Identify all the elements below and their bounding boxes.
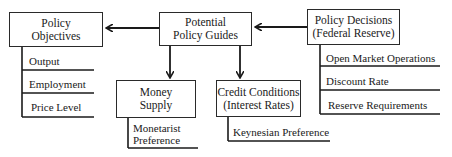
credit-conditions-line2: (Interest Rates) <box>223 99 294 112</box>
credit-conditions-line1: Credit Conditions <box>217 86 299 99</box>
policy-objectives-line1: Policy <box>41 17 70 30</box>
policy-decisions-line2: (Federal Reserve) <box>312 27 394 40</box>
objective-item: Employment <box>29 78 86 90</box>
potential-policy-guides-box: Potential Policy Guides <box>159 12 252 46</box>
policy-objectives-box: Policy Objectives <box>9 12 103 47</box>
potential-policy-guides-line2: Policy Guides <box>173 29 238 42</box>
decision-item: Discount Rate <box>326 75 389 87</box>
decision-item: Reserve Requirements <box>328 99 427 111</box>
potential-policy-guides-line1: Potential <box>185 16 226 29</box>
monetarist-note-line2: Preference <box>133 134 180 146</box>
policy-decisions-box: Policy Decisions (Federal Reserve) <box>307 9 400 45</box>
policy-objectives-line2: Objectives <box>31 30 80 43</box>
objective-item: Price Level <box>31 101 81 113</box>
decision-item: Open Market Operations <box>326 52 435 64</box>
money-supply-line2: Supply <box>140 99 173 112</box>
monetarist-note-line1: Monetarist <box>133 122 181 134</box>
objective-item: Output <box>29 55 60 67</box>
credit-conditions-box: Credit Conditions (Interest Rates) <box>216 80 301 117</box>
policy-decisions-line1: Policy Decisions <box>315 14 393 27</box>
money-supply-line1: Money <box>140 86 173 99</box>
keynesian-note: Keynesian Preference <box>233 126 329 138</box>
money-supply-box: Money Supply <box>116 80 196 118</box>
